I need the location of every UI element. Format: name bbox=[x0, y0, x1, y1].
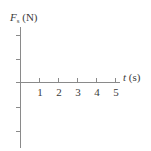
x-tick-label: 4 bbox=[92, 87, 102, 98]
x-tick-label: 5 bbox=[111, 87, 121, 98]
y-unit: (N) bbox=[19, 11, 37, 23]
y-var: F bbox=[10, 11, 17, 23]
x-tick-label: 1 bbox=[35, 87, 45, 98]
y-axis-label: Fs (N) bbox=[10, 12, 38, 27]
x-axis-label: t (s) bbox=[123, 72, 140, 83]
x-ticks bbox=[40, 78, 116, 83]
y-ticks bbox=[16, 36, 21, 132]
x-tick-label: 2 bbox=[54, 87, 64, 98]
x-tick-label: 3 bbox=[73, 87, 83, 98]
x-unit: (s) bbox=[126, 71, 140, 83]
